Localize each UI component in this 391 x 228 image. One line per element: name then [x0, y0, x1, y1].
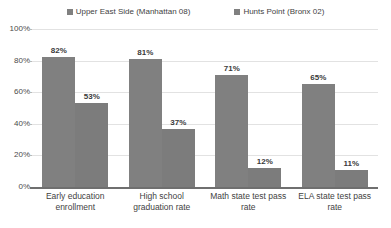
legend-swatch-icon	[234, 9, 240, 15]
bar-value-label: 65%	[310, 73, 326, 82]
legend-label-series-1: Upper East Side (Manhattan 08)	[76, 7, 191, 16]
bar-series-2[interactable]: 11%	[335, 170, 368, 187]
bar-value-label: 12%	[257, 157, 273, 166]
bar-group-ela-state-test-pass-rate: 65% 11%	[292, 29, 379, 187]
y-axis-tick-0: 0%	[0, 183, 30, 191]
legend-label-series-2: Hunts Point (Bronx 02)	[243, 7, 324, 16]
y-axis-tick-60: 60%	[0, 88, 30, 96]
bar-value-label: 37%	[170, 118, 186, 127]
y-axis-tick-80: 80%	[0, 57, 30, 65]
legend-swatch-icon	[67, 9, 73, 15]
legend-item-series-1[interactable]: Upper East Side (Manhattan 08)	[67, 7, 191, 16]
x-axis-label-3: ELA state test pass rate	[292, 191, 379, 213]
y-axis: 100% 80% 60% 40% 20% 0%	[0, 29, 30, 187]
bar-value-label: 82%	[51, 46, 67, 55]
bar-wrap: 11%	[335, 29, 368, 187]
bar-wrap: 82%	[42, 29, 75, 187]
legend-item-series-2[interactable]: Hunts Point (Bronx 02)	[234, 7, 324, 16]
bar-wrap: 53%	[75, 29, 108, 187]
y-axis-tick-100: 100%	[0, 25, 30, 33]
bar-group-high-school-graduation-rate: 81% 37%	[119, 29, 206, 187]
y-axis-tick-40: 40%	[0, 120, 30, 128]
bar-group-math-state-test-pass-rate: 71% 12%	[205, 29, 292, 187]
bar-value-label: 11%	[343, 159, 359, 168]
x-axis-label-0: Early education enrollment	[32, 191, 119, 213]
bar-series-1[interactable]: 65%	[302, 84, 335, 187]
bar-series-2[interactable]: 37%	[162, 129, 195, 187]
bar-series-2[interactable]: 53%	[75, 103, 108, 187]
bar-wrap: 71%	[215, 29, 248, 187]
x-axis-label-2: Math state test pass rate	[205, 191, 292, 213]
bar-series-1[interactable]: 81%	[129, 59, 162, 187]
x-axis-labels: Early education enrollment High school g…	[32, 191, 378, 213]
bar-wrap: 12%	[248, 29, 281, 187]
x-axis-label-1: High school graduation rate	[119, 191, 206, 213]
bar-series-2[interactable]: 12%	[248, 168, 281, 187]
bar-value-label: 81%	[137, 48, 153, 57]
bar-value-label: 71%	[224, 64, 240, 73]
bar-value-label: 53%	[84, 92, 100, 101]
chart-legend: Upper East Side (Manhattan 08) Hunts Poi…	[0, 7, 391, 16]
bar-series-1[interactable]: 71%	[215, 75, 248, 187]
y-axis-tick-20: 20%	[0, 151, 30, 159]
bar-wrap: 65%	[302, 29, 335, 187]
plot-area: 82% 53% 81% 37%	[32, 29, 378, 187]
bar-series-1[interactable]: 82%	[42, 57, 75, 187]
bar-groups: 82% 53% 81% 37%	[32, 29, 378, 187]
bar-wrap: 81%	[129, 29, 162, 187]
bar-group-early-education-enrollment: 82% 53%	[32, 29, 119, 187]
bar-wrap: 37%	[162, 29, 195, 187]
grouped-bar-chart: Upper East Side (Manhattan 08) Hunts Poi…	[0, 0, 391, 228]
x-axis-line	[30, 187, 378, 189]
